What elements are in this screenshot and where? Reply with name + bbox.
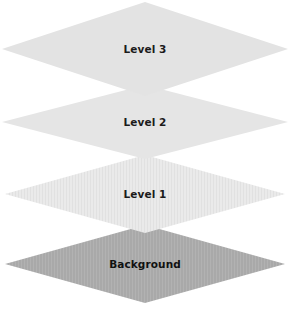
layer-label-background: Background [0, 259, 290, 270]
layer-stack-diagram: Level 3 Level 2 Level 1 Background [0, 0, 290, 309]
layer-label-level3: Level 3 [0, 44, 290, 55]
layer-label-level1: Level 1 [0, 189, 290, 200]
layer-label-level2: Level 2 [0, 117, 290, 128]
